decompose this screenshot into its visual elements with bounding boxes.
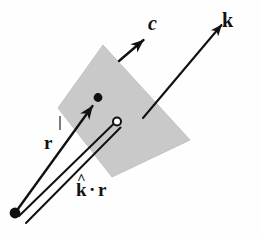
projection-endpoint-open-circle — [113, 118, 121, 126]
wavefront-plane — [58, 45, 190, 177]
dot-product-operator: · — [89, 179, 96, 200]
label-r: r — [44, 133, 52, 152]
k-vector-line — [143, 25, 222, 118]
circumflex-accent-icon: ^ — [76, 172, 87, 187]
projection-edge-upper — [19, 124, 114, 216]
c-vector-line — [119, 40, 144, 61]
field-point-dot — [94, 93, 103, 102]
label-c: c — [148, 13, 157, 33]
physics-diagram-figure: c k r ^k·r — [0, 0, 260, 237]
label-k-hat-dot-r: ^k·r — [76, 180, 107, 199]
diagram-canvas — [0, 0, 260, 237]
origin-point-dot — [10, 208, 21, 219]
label-k: k — [222, 10, 233, 30]
k-hat-glyph: ^k — [76, 180, 87, 199]
projection-edge-lower — [26, 128, 121, 224]
r-operand-letter: r — [98, 179, 107, 200]
